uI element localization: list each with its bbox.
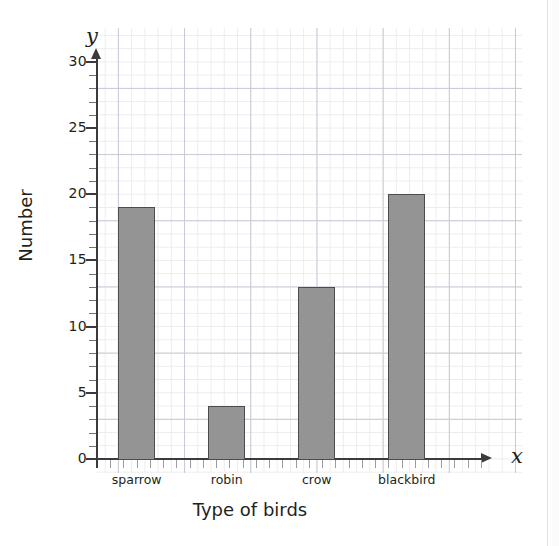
x-axis-origin-tick [96,452,98,468]
x-axis-tick [454,460,455,468]
x-axis-category-label-robin: robin [211,472,243,487]
y-axis-minor-tick [89,287,96,288]
y-axis-minor-tick [89,247,96,248]
x-axis-tick [282,460,283,468]
y-axis-minor-tick [89,446,96,447]
x-axis-tick [415,460,416,468]
y-axis-minor-tick [89,88,96,89]
bar-sparrow [118,207,155,460]
x-axis-tick [296,460,297,468]
x-axis-tick [349,460,350,468]
y-axis-minor-tick [89,154,96,155]
y-axis-minor-tick [89,433,96,434]
y-axis-tick-label: 0 [51,450,87,466]
y-axis-minor-tick [89,353,96,354]
y-axis-minor-tick [89,419,96,420]
x-axis-tick [190,460,191,468]
y-axis-tick-label: 25 [51,119,87,135]
y-axis-minor-tick [89,181,96,182]
bar-crow [298,287,335,460]
x-axis-tick [243,460,244,468]
y-axis-arrow-icon [91,48,101,59]
y-axis-letter: y [86,24,98,48]
y-axis-minor-tick [89,75,96,76]
x-axis-tick [362,460,363,468]
x-axis-tick [481,460,482,468]
x-axis-category-label-crow: crow [302,472,332,487]
y-axis-minor-tick [89,300,96,301]
y-axis-minor-tick [89,102,96,103]
y-axis-major-tick [86,458,96,460]
x-axis-tick [428,460,429,468]
x-axis-tick [150,460,151,468]
x-axis-letter: x [511,444,523,468]
x-axis-tick [322,460,323,468]
bar-blackbird [388,194,425,460]
y-axis-tick-label: 5 [51,384,87,400]
y-axis-minor-tick [89,274,96,275]
x-axis-arrow-icon [481,453,492,463]
y-axis-minor-tick [89,406,96,407]
x-axis-tick [229,460,230,468]
y-axis-minor-tick [89,340,96,341]
x-axis-tick [388,460,389,468]
x-axis-tick [375,460,376,468]
y-axis-major-tick [86,193,96,195]
y-axis-minor-tick [89,115,96,116]
y-axis-title: Number [15,156,36,296]
x-axis-category-label-sparrow: sparrow [112,472,162,487]
y-axis-major-tick [86,326,96,328]
x-axis-tick [176,460,177,468]
x-axis-tick [203,460,204,468]
x-axis-tick [468,460,469,468]
x-axis-tick [110,460,111,468]
y-axis-minor-tick [89,234,96,235]
y-axis-tick-label: 30 [51,53,87,69]
y-axis-minor-tick [89,221,96,222]
x-axis-tick [402,460,403,468]
y-axis-minor-tick [89,168,96,169]
x-axis-tick [269,460,270,468]
x-axis-tick [309,460,310,468]
y-axis-minor-tick [89,207,96,208]
x-axis-title: Type of birds [0,499,500,520]
chart-page: y x 051015202530sparrowrobincrowblackbir… [0,0,559,546]
y-axis-tick-label: 20 [51,185,87,201]
x-axis-tick [441,460,442,468]
y-axis-major-tick [86,259,96,261]
y-axis-major-tick [86,127,96,129]
y-axis-major-tick [86,392,96,394]
x-axis-tick [256,460,257,468]
x-axis-tick [216,460,217,468]
x-axis-category-label-blackbird: blackbird [378,472,435,487]
bar-chart-plot: y x 051015202530sparrowrobincrowblackbir… [0,0,559,546]
bar-robin [208,406,245,460]
y-axis-minor-tick [89,313,96,314]
x-axis-tick [123,460,124,468]
x-axis-tick [163,460,164,468]
y-axis-line [96,57,98,460]
y-axis-minor-tick [89,380,96,381]
y-axis-minor-tick [89,366,96,367]
x-axis-tick [335,460,336,468]
x-axis-tick [137,460,138,468]
y-axis-minor-tick [89,141,96,142]
y-axis-major-tick [86,61,96,63]
y-axis-tick-label: 15 [51,251,87,267]
y-axis-tick-label: 10 [51,318,87,334]
